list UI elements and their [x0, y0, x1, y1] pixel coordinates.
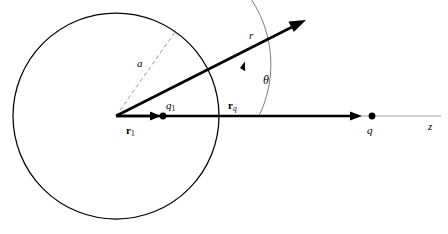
source-charge-dot	[369, 113, 376, 120]
z-axis-label: z	[428, 121, 432, 132]
diagram-canvas	[0, 0, 448, 234]
r1-vector-label: r1	[126, 125, 135, 138]
rq-vector-label-subscript: q	[233, 104, 237, 113]
image-charge-label: q1	[166, 100, 175, 113]
r-vector-arrowhead	[289, 20, 307, 32]
image-charge-dot	[160, 113, 167, 120]
theta-arc-tip	[240, 62, 245, 72]
physics-diagram-figure: a r θ q1 r1 rq q z	[0, 0, 448, 234]
theta-angle-label: θ	[263, 74, 269, 86]
r-vector-shaft	[116, 25, 296, 116]
r-vector-label: r	[249, 30, 253, 41]
source-charge-label: q	[367, 125, 373, 136]
r1-vector-label-subscript: 1	[131, 129, 135, 138]
image-charge-label-subscript: 1	[172, 104, 176, 113]
rq-vector-arrowhead	[350, 111, 362, 120]
sphere-radius-label: a	[137, 58, 143, 69]
rq-vector-label: rq	[228, 100, 237, 113]
